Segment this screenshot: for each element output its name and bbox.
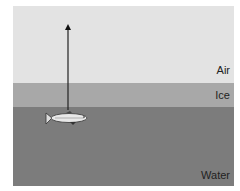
up-arrow-icon <box>65 24 71 110</box>
overlay <box>0 0 240 191</box>
fish-icon <box>46 111 87 125</box>
